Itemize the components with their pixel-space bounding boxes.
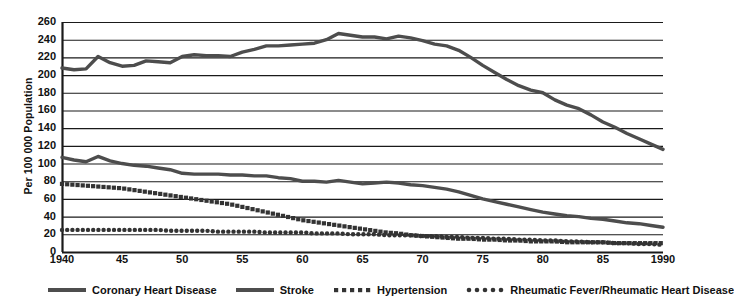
round-marker — [185, 229, 189, 233]
y-tick-label: 220 — [10, 51, 56, 62]
legend-label: Rheumatic Fever/Rheumatic Heart Disease — [510, 285, 734, 296]
round-marker — [143, 228, 147, 232]
round-marker — [101, 228, 105, 232]
square-marker — [322, 221, 326, 225]
square-marker — [312, 220, 316, 224]
round-marker — [585, 240, 589, 244]
legend-label: Hypertension — [377, 285, 447, 296]
round-marker — [60, 228, 64, 232]
square-marker — [194, 197, 198, 201]
round-marker — [512, 237, 516, 241]
legend-item[interactable]: Hypertension — [331, 285, 447, 296]
square-marker — [112, 186, 116, 190]
square-marker — [230, 203, 234, 207]
round-marker — [569, 239, 573, 243]
round-marker — [164, 228, 168, 232]
y-tick-label: 60 — [10, 193, 56, 204]
round-marker — [91, 228, 95, 232]
round-marker — [657, 242, 661, 246]
round-marker — [314, 231, 318, 235]
round-marker — [242, 229, 246, 233]
round-marker — [595, 240, 599, 244]
round-marker — [538, 238, 542, 242]
round-marker — [75, 228, 79, 232]
round-marker — [278, 230, 282, 234]
round-marker — [96, 228, 100, 232]
round-marker — [304, 231, 308, 235]
round-marker — [112, 228, 116, 232]
round-marker — [335, 231, 339, 235]
square-marker — [215, 200, 219, 204]
square-marker — [281, 214, 285, 218]
round-marker — [611, 241, 615, 245]
square-marker — [184, 196, 188, 200]
round-marker — [346, 232, 350, 236]
round-marker — [527, 237, 531, 241]
square-marker — [101, 185, 105, 189]
round-marker — [481, 236, 485, 240]
round-marker — [86, 228, 90, 232]
square-marker — [199, 198, 203, 202]
square-marker — [117, 186, 121, 190]
legend-swatch-icon — [464, 285, 506, 295]
round-marker — [533, 238, 537, 242]
square-marker — [65, 182, 69, 186]
chart-legend: Coronary Heart DiseaseStrokeHypertension… — [0, 280, 672, 300]
round-marker — [366, 232, 370, 236]
square-marker — [337, 223, 341, 227]
y-tick-label: 200 — [10, 69, 56, 80]
y-tick-label: 240 — [10, 34, 56, 45]
x-tick-label: 80 — [537, 254, 549, 265]
round-marker — [465, 235, 469, 239]
round-marker — [460, 235, 464, 239]
legend-item[interactable]: Stroke — [234, 285, 314, 296]
square-marker — [332, 223, 336, 227]
y-tick-label: 100 — [10, 158, 56, 169]
round-marker — [642, 242, 646, 246]
round-marker — [647, 242, 651, 246]
round-marker — [107, 228, 111, 232]
square-marker — [327, 222, 331, 226]
round-marker — [377, 232, 381, 236]
square-marker — [210, 199, 214, 203]
square-marker — [261, 209, 265, 213]
legend-label: Stroke — [280, 285, 314, 296]
round-marker — [299, 230, 303, 234]
round-marker — [169, 229, 173, 233]
round-marker — [548, 238, 552, 242]
y-tick-label: 160 — [10, 104, 56, 115]
line-path — [62, 34, 663, 150]
round-marker — [392, 233, 396, 237]
round-marker — [221, 229, 225, 233]
round-marker — [200, 229, 204, 233]
round-marker — [294, 230, 298, 234]
square-marker — [158, 192, 162, 196]
round-marker — [600, 240, 604, 244]
y-tick-label: 120 — [10, 140, 56, 151]
x-tick-label: 50 — [176, 254, 188, 265]
square-marker — [127, 187, 131, 191]
square-marker — [163, 193, 167, 197]
square-marker — [138, 189, 142, 193]
round-marker — [351, 232, 355, 236]
square-marker — [189, 196, 193, 200]
legend-item[interactable]: Coronary Heart Disease — [46, 285, 217, 296]
round-marker — [559, 239, 563, 243]
legend-swatch-icon — [331, 285, 373, 295]
round-marker — [70, 228, 74, 232]
x-tick-label: 85 — [597, 254, 609, 265]
square-marker — [225, 202, 229, 206]
y-tick-label: 260 — [10, 16, 56, 27]
round-marker — [117, 228, 121, 232]
square-marker — [122, 187, 126, 191]
round-marker — [636, 242, 640, 246]
square-marker — [235, 204, 239, 208]
round-marker — [387, 233, 391, 237]
legend-item[interactable]: Rheumatic Fever/Rheumatic Heart Disease — [464, 285, 734, 296]
round-marker — [434, 234, 438, 238]
square-marker — [368, 228, 372, 232]
round-marker — [122, 228, 126, 232]
square-marker — [143, 190, 147, 194]
square-marker — [70, 183, 74, 187]
round-marker — [408, 233, 412, 237]
